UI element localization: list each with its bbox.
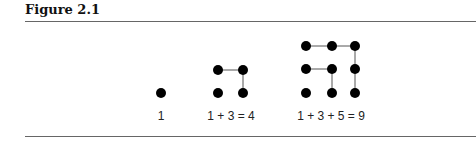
dot-group-3 — [301, 41, 360, 98]
dot — [350, 64, 360, 74]
dot — [350, 88, 360, 98]
dot-group-2 — [213, 65, 248, 98]
dot — [238, 65, 248, 75]
dot — [301, 88, 311, 98]
dot — [238, 88, 248, 98]
group-label-4: 1 + 3 = 4 — [207, 109, 254, 123]
dot — [327, 88, 337, 98]
dot — [327, 64, 337, 74]
dot — [327, 41, 337, 51]
bottom-rule — [25, 136, 476, 137]
dot-group-1 — [156, 88, 166, 98]
dot — [301, 64, 311, 74]
dot — [350, 41, 360, 51]
group-label-1: 1 — [158, 109, 165, 123]
group-label-9: 1 + 3 + 5 = 9 — [297, 109, 365, 123]
dot — [213, 88, 223, 98]
dot — [156, 88, 166, 98]
dot — [213, 65, 223, 75]
dot — [301, 41, 311, 51]
